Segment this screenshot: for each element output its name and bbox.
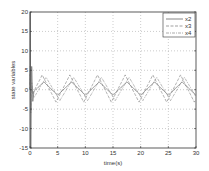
svg-text:-5: -5 bbox=[23, 106, 29, 112]
svg-text:-10: -10 bbox=[19, 126, 28, 132]
y-axis-label: state variables bbox=[10, 61, 16, 100]
svg-text:30: 30 bbox=[193, 150, 200, 156]
svg-text:5: 5 bbox=[25, 67, 29, 73]
legend-label-x2: x2 bbox=[185, 16, 192, 22]
svg-text:-15: -15 bbox=[19, 145, 28, 151]
svg-text:15: 15 bbox=[21, 28, 28, 34]
line-chart: 051015202530-15-10-505101520 time(s) sta… bbox=[0, 0, 209, 171]
svg-text:5: 5 bbox=[56, 150, 60, 156]
svg-text:15: 15 bbox=[110, 150, 117, 156]
svg-text:20: 20 bbox=[21, 9, 28, 15]
x-axis-label: time(s) bbox=[104, 160, 122, 166]
legend-label-x3: x3 bbox=[185, 23, 192, 29]
svg-text:0: 0 bbox=[25, 87, 29, 93]
svg-text:20: 20 bbox=[137, 150, 144, 156]
svg-text:10: 10 bbox=[82, 150, 89, 156]
legend: x2x3x4 bbox=[163, 13, 195, 37]
svg-text:25: 25 bbox=[165, 150, 172, 156]
legend-label-x4: x4 bbox=[185, 30, 192, 36]
svg-text:10: 10 bbox=[21, 48, 28, 54]
svg-text:0: 0 bbox=[28, 150, 32, 156]
